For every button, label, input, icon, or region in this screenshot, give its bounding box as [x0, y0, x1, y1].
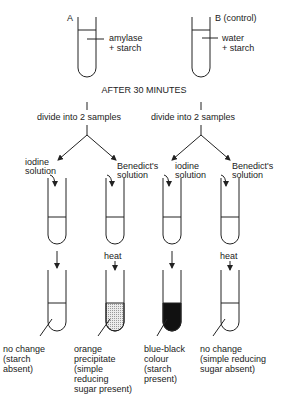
tube-b: [192, 17, 218, 77]
diagram-lines: [0, 0, 288, 400]
divide-right-label: divide into 2 samples: [151, 112, 235, 122]
heat-label-left: heat: [104, 251, 122, 261]
result-benedicts-b: no change (simple reducing sugar absent): [200, 344, 266, 374]
result-iodine-b: blue-black colour (starch present): [144, 344, 185, 384]
reagent-iodine-left-line2: solution: [25, 166, 56, 176]
result-benedicts-a: orange precipitate (simple reducing suga…: [74, 344, 132, 394]
reagent-iodine-right-line2: solution: [175, 170, 206, 180]
tube-b-contents-line1: water: [222, 33, 244, 43]
tube-b-label: B (control): [215, 13, 257, 23]
divide-left-label: divide into 2 samples: [37, 112, 121, 122]
reagent-benedicts-left-line2: solution: [117, 170, 148, 180]
time-label: AFTER 30 MINUTES: [0, 85, 288, 95]
heat-label-right: heat: [220, 251, 238, 261]
tube-a-contents-line2: + starch: [109, 43, 141, 53]
result-iodine-a: no change (starch absent): [3, 344, 45, 374]
tube-a: [78, 17, 104, 77]
tube-b-contents-line2: + starch: [222, 43, 254, 53]
reagent-benedicts-right-line2: solution: [232, 170, 263, 180]
tube-a-contents-line1: amylase: [109, 33, 143, 43]
tube-a-label: A: [67, 13, 73, 23]
